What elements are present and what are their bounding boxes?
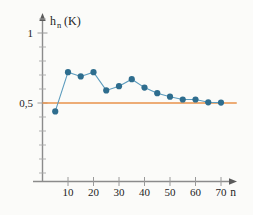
data-point	[192, 96, 198, 102]
y-tick-label-1: 1	[28, 27, 34, 39]
y-axis-title-subscript: n	[57, 20, 62, 30]
data-point	[141, 85, 147, 91]
data-point	[218, 99, 224, 105]
data-point	[129, 76, 135, 82]
data-point	[103, 87, 109, 93]
data-point	[205, 99, 211, 105]
x-tick-label-30: 30	[114, 186, 126, 198]
chart-figure: 1 0,5 h n (K) n 10203040506070	[0, 0, 253, 215]
x-tick-label-10: 10	[63, 186, 75, 198]
x-axis-tick-labels: 10203040506070	[63, 186, 228, 198]
x-tick-label-70: 70	[216, 186, 228, 198]
axes-group	[33, 13, 237, 185]
y-tick-label-0-5: 0,5	[19, 97, 33, 109]
x-axis-title: n	[230, 186, 236, 198]
data-point	[90, 69, 96, 75]
x-tick-label-40: 40	[139, 186, 151, 198]
y-axis-title-unit: (K)	[64, 14, 81, 28]
x-axis-arrowhead	[229, 178, 237, 184]
series-markers	[52, 69, 224, 114]
data-point	[52, 108, 58, 114]
data-point	[116, 83, 122, 89]
convergence-line-chart: 1 0,5 h n (K) n 10203040506070	[0, 0, 253, 215]
y-axis-arrowhead	[39, 13, 45, 21]
x-tick-label-60: 60	[190, 186, 202, 198]
y-axis-title-base: h	[50, 14, 56, 28]
data-point	[180, 96, 186, 102]
data-point	[78, 73, 84, 79]
data-point	[154, 90, 160, 96]
y-axis-title: h n (K)	[50, 14, 81, 30]
x-tick-label-20: 20	[88, 186, 100, 198]
data-point	[167, 94, 173, 100]
data-point	[65, 69, 71, 75]
x-tick-label-50: 50	[165, 186, 177, 198]
